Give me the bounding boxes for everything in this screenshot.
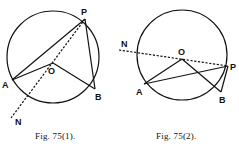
label-n-1: N [15, 117, 22, 127]
circle-1 [7, 11, 99, 103]
label-a-1: A [2, 80, 9, 90]
label-n-2: N [121, 39, 128, 49]
label-p-1: P [81, 7, 87, 17]
figure-75-1: P A O B N Fig. 75(1). [2, 7, 102, 141]
label-p-2: P [230, 62, 236, 72]
label-b-1: B [95, 92, 102, 102]
diameter-np-2 [119, 50, 228, 66]
figure-75-2: N O P A B Fig. 75(2). [119, 10, 236, 141]
radius-oa-1 [12, 63, 53, 80]
label-a-2: A [136, 87, 143, 97]
geometry-figures: P A O B N Fig. 75(1). N O P A B Fig. 75(… [0, 0, 239, 146]
caption-fig-2: Fig. 75(2). [156, 131, 196, 141]
label-b-2: B [219, 95, 226, 105]
radius-ob-1 [53, 63, 95, 89]
caption-fig-1: Fig. 75(1). [35, 131, 75, 141]
label-o-2: O [178, 47, 185, 57]
label-o-1: O [48, 66, 55, 76]
